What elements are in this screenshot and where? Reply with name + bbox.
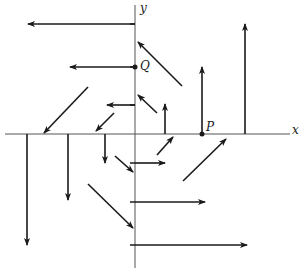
vector-arrow <box>157 137 173 155</box>
axes <box>5 5 290 268</box>
vector-arrow <box>88 184 133 228</box>
vector-arrow <box>183 139 226 181</box>
vector-arrow <box>96 113 114 131</box>
x-axis-label: x <box>292 124 299 136</box>
point-p-dot <box>200 132 205 137</box>
vector-arrow <box>44 87 88 133</box>
vector-arrow <box>138 95 157 113</box>
y-axis-label: y <box>140 2 147 14</box>
vector-arrow <box>115 156 133 172</box>
point-q-dot <box>133 65 138 70</box>
vector-field-diagram <box>0 0 301 278</box>
point-q-label: Q <box>140 60 150 72</box>
point-p-label: P <box>206 121 214 133</box>
